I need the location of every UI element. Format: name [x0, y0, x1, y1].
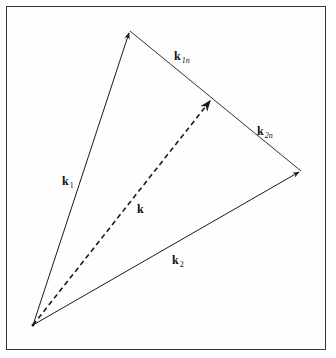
vector-k2 [33, 172, 299, 325]
label-k1n: k1n [174, 47, 190, 65]
label-k1-main: k [62, 174, 69, 188]
label-k: k [137, 200, 144, 216]
label-k-main: k [137, 202, 144, 216]
label-k2n-sub: 2n [265, 131, 273, 140]
label-k2n: k2n [257, 122, 273, 140]
vector-k-dashed [33, 101, 210, 325]
label-k1n-main: k [174, 49, 181, 63]
vector-k1 [33, 33, 129, 325]
segment-k1n-k2n [130, 31, 301, 171]
label-k2: k2 [172, 251, 184, 269]
label-k2-main: k [172, 253, 179, 267]
origin-point [32, 324, 35, 327]
label-k1-sub: 1 [70, 181, 74, 190]
label-k1n-sub: 1n [182, 56, 190, 65]
label-k1: k1 [62, 172, 74, 190]
vector-diagram [0, 0, 336, 358]
label-k2-sub: 2 [180, 260, 184, 269]
label-k2n-main: k [257, 124, 264, 138]
